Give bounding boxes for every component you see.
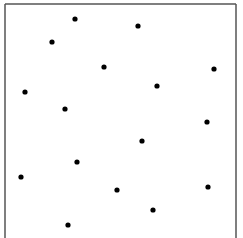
point-11 — [74, 159, 79, 164]
frame — [5, 4, 236, 238]
points-group — [18, 16, 216, 227]
point-9 — [204, 119, 209, 124]
point-5 — [211, 66, 216, 71]
point-6 — [154, 83, 159, 88]
point-2 — [135, 23, 140, 28]
point-4 — [101, 64, 106, 69]
point-3 — [49, 39, 54, 44]
point-15 — [150, 207, 155, 212]
point-13 — [114, 187, 119, 192]
point-1 — [72, 16, 77, 21]
point-7 — [22, 89, 27, 94]
point-8 — [62, 106, 67, 111]
point-set-diagram — [0, 0, 243, 238]
point-14 — [205, 184, 210, 189]
point-12 — [18, 174, 23, 179]
point-10 — [139, 138, 144, 143]
point-16 — [65, 222, 70, 227]
